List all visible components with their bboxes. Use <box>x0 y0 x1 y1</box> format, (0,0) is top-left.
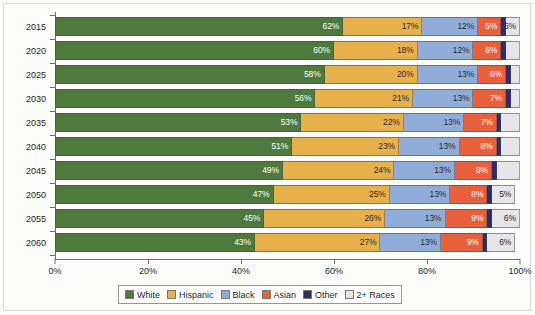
segment-value-label: 6% <box>490 70 505 79</box>
bar-segment-black: 13% <box>394 161 454 180</box>
bar-segment-white: 45% <box>55 209 264 228</box>
x-axis-tick: 20% <box>139 259 157 276</box>
segment-value-label: 13% <box>430 190 450 199</box>
bar-segment-asian: 8% <box>455 161 492 180</box>
y-axis-tick-label: 2050 <box>26 190 55 200</box>
x-axis-tick: 60% <box>325 259 343 276</box>
bar-segment-asian: 9% <box>441 233 483 252</box>
legend-swatch-icon <box>345 290 354 299</box>
bar-segment-hispanic: 25% <box>274 185 390 204</box>
bar-segment-hispanic: 22% <box>301 113 403 132</box>
bar-segment-asian: 5% <box>478 17 501 36</box>
bar-segment-2-races: 6% <box>487 233 515 252</box>
segment-value-label: 23% <box>378 142 398 151</box>
bar-segment-white: 53% <box>55 113 301 132</box>
bar-segment-black: 13% <box>404 113 464 132</box>
bar-segment-white: 56% <box>55 89 315 108</box>
bar-segment-black: 12% <box>422 17 478 36</box>
bar-segment-asian: 6% <box>473 41 501 60</box>
segment-value-label: 13% <box>420 238 440 247</box>
plot-area: 62%17%12%5%5%60%18%12%6%58%20%13%6%56%21… <box>55 12 520 259</box>
x-axis-line <box>55 259 520 260</box>
segment-value-label: 47% <box>253 190 273 199</box>
bar-segment-hispanic: 24% <box>283 161 395 180</box>
bar-segment-black: 13% <box>418 65 478 84</box>
x-axis-tick-label: 60% <box>325 266 343 276</box>
x-axis-tick-mark <box>147 259 148 264</box>
x-axis-tick-label: 0% <box>48 266 61 276</box>
segment-value-label: 58% <box>304 70 324 79</box>
bar-row: 45%26%13%9%6% <box>55 209 520 228</box>
x-axis-tick-mark <box>54 259 55 264</box>
bar-segment-2-races <box>497 161 520 180</box>
segment-value-label: 13% <box>425 214 445 223</box>
bar-segment-asian: 8% <box>450 185 487 204</box>
segment-value-label: 45% <box>244 214 264 223</box>
segment-value-label: 12% <box>457 22 477 31</box>
bar-segment-2-races <box>506 41 520 60</box>
y-axis-tick-label: 2045 <box>26 166 55 176</box>
legend-item-black[interactable]: Black <box>221 290 255 300</box>
segment-value-label: 13% <box>457 70 477 79</box>
chart-legend: WhiteHispanicBlackAsianOther2+ Races <box>118 285 402 304</box>
bar-segment-hispanic: 20% <box>325 65 418 84</box>
segment-value-label: 13% <box>439 142 459 151</box>
bar-segment-2-races <box>511 65 520 84</box>
x-axis-tick-mark <box>520 259 521 264</box>
segment-value-label: 51% <box>271 142 291 151</box>
legend-item-white[interactable]: White <box>125 290 160 300</box>
segment-value-label: 5% <box>506 22 519 31</box>
segment-value-label: 6% <box>504 214 519 223</box>
bar-row: 58%20%13%6% <box>55 65 520 84</box>
segment-value-label: 8% <box>471 190 486 199</box>
bar-segment-black: 13% <box>390 185 450 204</box>
segment-value-label: 13% <box>453 94 473 103</box>
bar-row: 51%23%13%8% <box>55 137 520 156</box>
x-axis-tick: 80% <box>418 259 436 276</box>
segment-value-label: 8% <box>476 166 491 175</box>
legend-label: Other <box>315 290 338 300</box>
bar-row: 53%22%13%7% <box>55 113 520 132</box>
segment-value-label: 8% <box>481 142 496 151</box>
x-axis-tick-label: 80% <box>418 266 436 276</box>
y-axis-tick-label: 2030 <box>26 94 55 104</box>
y-axis-tick-label: 2035 <box>26 118 55 128</box>
bar-segment-hispanic: 26% <box>264 209 385 228</box>
segment-value-label: 17% <box>402 22 422 31</box>
segment-value-label: 12% <box>453 46 473 55</box>
bar-segment-white: 60% <box>55 41 334 60</box>
x-axis-tick-mark <box>426 259 427 264</box>
segment-value-label: 7% <box>490 94 505 103</box>
legend-item-asian[interactable]: Asian <box>262 290 297 300</box>
legend-label: White <box>137 290 160 300</box>
y-axis-tick-label: 2015 <box>26 22 55 32</box>
segment-value-label: 22% <box>383 118 403 127</box>
bar-segment-black: 13% <box>413 89 473 108</box>
legend-swatch-icon <box>221 290 230 299</box>
legend-item-other[interactable]: Other <box>303 290 338 300</box>
bar-segment-asian: 7% <box>473 89 506 108</box>
segment-value-label: 62% <box>323 22 343 31</box>
x-axis: 0%20%40%60%80%100% <box>55 259 520 283</box>
segment-value-label: 49% <box>262 166 282 175</box>
bar-segment-hispanic: 23% <box>292 137 399 156</box>
legend-swatch-icon <box>262 290 271 299</box>
x-axis-tick-label: 20% <box>139 266 157 276</box>
x-axis-tick-mark <box>240 259 241 264</box>
legend-item-hispanic[interactable]: Hispanic <box>167 290 214 300</box>
bar-segment-black: 13% <box>385 209 445 228</box>
y-axis-tick-label: 2020 <box>26 46 55 56</box>
x-axis-tick: 40% <box>232 259 250 276</box>
legend-item-2-races[interactable]: 2+ Races <box>345 290 395 300</box>
y-axis-tick-label: 2040 <box>26 142 55 152</box>
segment-value-label: 26% <box>364 214 384 223</box>
bar-segment-2-races: 5% <box>506 17 520 36</box>
legend-swatch-icon <box>125 290 134 299</box>
bar-row: 56%21%13%7% <box>55 89 520 108</box>
bar-segment-white: 43% <box>55 233 255 252</box>
bar-segment-2-races <box>501 137 520 156</box>
bar-segment-2-races <box>501 113 520 132</box>
bar-rows: 62%17%12%5%5%60%18%12%6%58%20%13%6%56%21… <box>55 12 520 259</box>
segment-value-label: 5% <box>485 22 500 31</box>
segment-value-label: 6% <box>499 238 514 247</box>
